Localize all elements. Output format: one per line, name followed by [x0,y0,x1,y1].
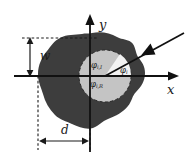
width-label: w [40,50,50,62]
angle-label-reflected: φi,R [90,80,103,89]
x-axis-label: x [167,83,174,96]
angle-label-ray: φi [120,66,128,75]
width-arrow [27,37,34,77]
angle-incident-sub: i,I [97,64,102,70]
distance-label: d [61,124,69,136]
angle-ray-sub: i [126,69,128,75]
distance-arrow [39,138,89,145]
y-axis-label: y [99,18,106,31]
angle-label-incident: φi,I [91,61,102,70]
angle-reflected-sub: i,R [96,83,103,89]
scattering-geometry-figure: y x w d φi,I φi φi,R [0,0,188,165]
